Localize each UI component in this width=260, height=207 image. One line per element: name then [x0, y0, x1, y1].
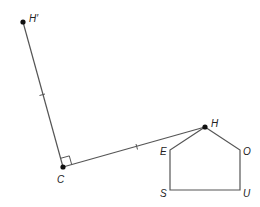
point-h: [202, 124, 207, 129]
label-h-prime: H′: [29, 13, 39, 24]
label-o: O: [243, 146, 251, 157]
point-c: [60, 164, 65, 169]
label-e: E: [160, 146, 167, 157]
pentagon-house: [170, 127, 240, 190]
label-u: U: [243, 188, 251, 199]
label-s: S: [160, 188, 167, 199]
label-h: H: [211, 118, 219, 129]
point-h-prime: [20, 19, 25, 24]
geometry-diagram: H′ C H E O S U: [0, 0, 260, 207]
segment-c-h: [63, 127, 205, 167]
congruence-tick-h-prime-c: [40, 94, 46, 96]
label-c: C: [57, 174, 65, 185]
